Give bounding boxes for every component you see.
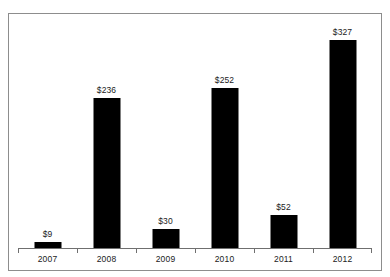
bar-2010[interactable]	[211, 88, 238, 248]
bar-value-label: $327	[333, 27, 352, 37]
bar-2012[interactable]	[329, 40, 356, 248]
x-axis-category-labels: 2007 2008 2009 2010 2011 2012	[18, 254, 372, 268]
x-axis-label-2008: 2008	[77, 254, 136, 264]
bar-chart: $9 $236 $30 $252 $52 $327 2007	[0, 0, 390, 277]
x-axis-label-2011: 2011	[254, 254, 313, 264]
bar-slot-2011: $52	[254, 18, 313, 248]
bar-2011[interactable]	[270, 215, 297, 248]
bar-slot-2008: $236	[77, 18, 136, 248]
bar-value-label: $252	[215, 75, 234, 85]
x-axis-tick	[313, 248, 314, 253]
bar-slot-2007: $9	[18, 18, 77, 248]
x-axis-label-2012: 2012	[313, 254, 372, 264]
bar-2008[interactable]	[93, 98, 120, 248]
plot-area: $9 $236 $30 $252 $52 $327	[18, 18, 372, 248]
bar-slot-2012: $327	[313, 18, 372, 248]
bar-value-label: $52	[276, 202, 290, 212]
x-axis-tick	[136, 248, 137, 253]
x-axis-tick	[254, 248, 255, 253]
x-axis-tick	[77, 248, 78, 253]
bar-value-label: $30	[158, 216, 172, 226]
x-axis-label-2009: 2009	[136, 254, 195, 264]
bar-2009[interactable]	[152, 229, 179, 248]
bar-value-label: $236	[97, 85, 116, 95]
x-axis-tick	[18, 248, 19, 253]
x-axis-tick	[371, 248, 372, 253]
x-axis-tick	[195, 248, 196, 253]
bar-slot-2010: $252	[195, 18, 254, 248]
x-axis-label-2007: 2007	[18, 254, 77, 264]
x-axis-label-2010: 2010	[195, 254, 254, 264]
bar-value-label: $9	[43, 229, 53, 239]
bar-slot-2009: $30	[136, 18, 195, 248]
